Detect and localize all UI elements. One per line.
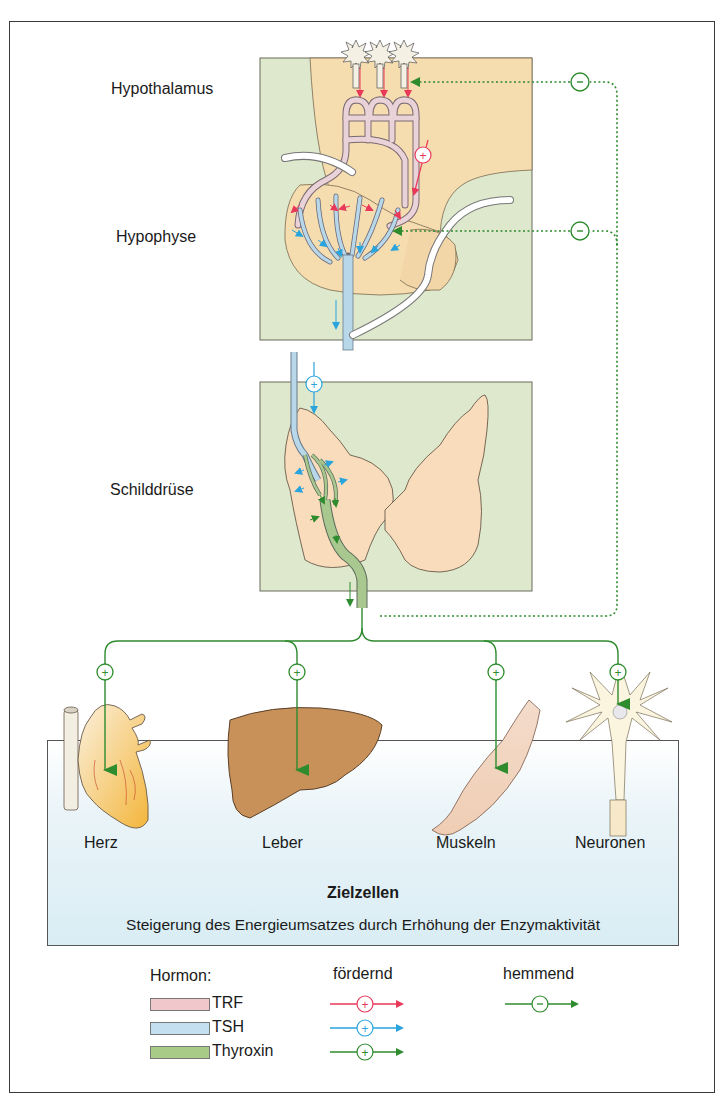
legend-hormone-heading: Hormon: (150, 967, 211, 985)
legend-arrow-tsh: + (330, 1020, 402, 1036)
legend-swatch-thyroxin (150, 1046, 210, 1059)
thyroxin-distribution (105, 608, 618, 664)
svg-text:+: + (419, 149, 426, 163)
liver-illustration (228, 708, 382, 819)
legend-label-thyroxin: Thyroxin (212, 1042, 273, 1060)
legend-arrow-thyroxin: + (330, 1044, 402, 1060)
svg-text:+: + (101, 666, 108, 680)
svg-text:+: + (361, 1022, 368, 1036)
feedback-inhibit-hypothalamus (571, 73, 589, 91)
heart-illustration (64, 705, 150, 829)
panel-hypothalamus-hypophyse: + (260, 40, 532, 350)
neuron-illustration (566, 664, 672, 836)
target-cells-description: Steigerung des Energieumsatzes durch Erh… (47, 916, 679, 934)
svg-text:+: + (361, 1046, 368, 1060)
panel-schilddruese: + (260, 352, 532, 608)
legend-arrow-trf: + (330, 996, 402, 1012)
organ-label-muskeln: Muskeln (436, 834, 496, 852)
legend-promoting-heading: fördernd (333, 965, 393, 983)
svg-text:+: + (614, 666, 621, 680)
legend-swatch-trf (150, 998, 210, 1011)
organ-label-leber: Leber (262, 834, 303, 852)
svg-text:+: + (293, 666, 300, 680)
legend-label-trf: TRF (212, 994, 243, 1012)
organ-label-herz: Herz (84, 834, 118, 852)
svg-text:+: + (361, 998, 368, 1012)
legend-inhibiting-heading: hemmend (503, 965, 574, 983)
target-cells-title: Zielzellen (47, 884, 679, 902)
legend-arrow-inhibit (505, 996, 577, 1012)
organ-label-neuronen: Neuronen (575, 834, 645, 852)
legend-swatch-tsh (150, 1022, 210, 1035)
svg-text:+: + (492, 666, 499, 680)
diagram-canvas: + (0, 0, 724, 1108)
legend-label-tsh: TSH (212, 1018, 244, 1036)
svg-text:+: + (310, 378, 317, 392)
feedback-inhibit-hypophyse (571, 222, 589, 240)
muscle-illustration (432, 700, 540, 835)
hypothalamic-neurons (341, 40, 419, 88)
